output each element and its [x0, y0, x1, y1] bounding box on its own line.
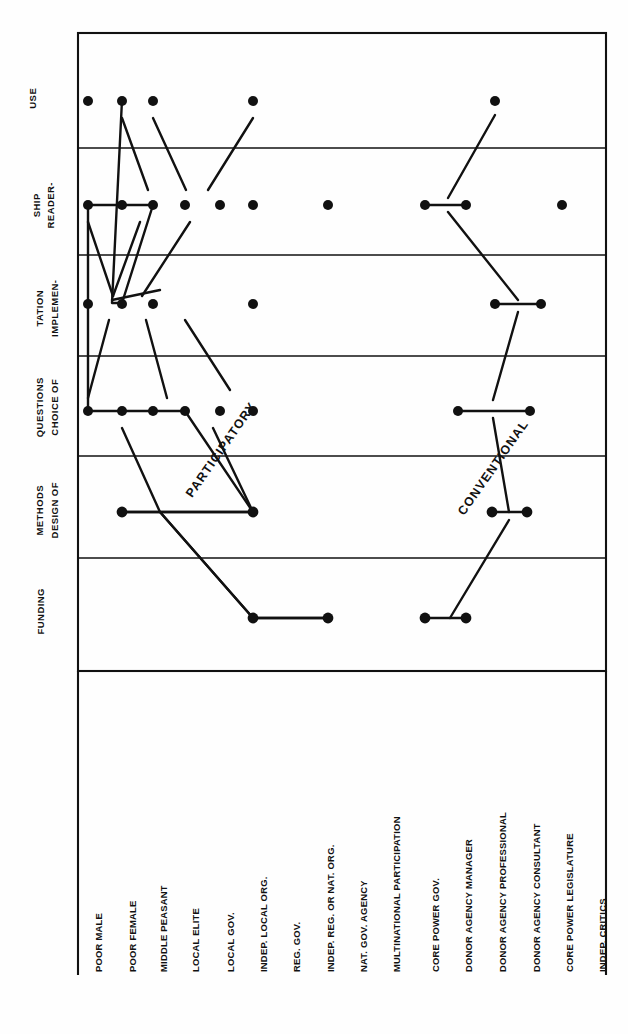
category-label-nat-gov-agency: NAT. GOV. AGENCY: [358, 880, 369, 972]
dot-design-poor-female: [117, 507, 128, 518]
dot-readership-middle-peasant: [148, 200, 158, 210]
dot-questions-donor-agency-consultant: [525, 406, 535, 416]
participatory-span-bars: [122, 512, 328, 618]
dot-readership-indep-local-org: [248, 200, 258, 210]
dot-readership-poor-female: [117, 200, 127, 210]
dot-questions-local-gov: [215, 406, 225, 416]
category-label-core-power-legislature: CORE POWER LEGISLATURE: [564, 833, 575, 972]
dot-use-middle-peasant: [148, 96, 158, 106]
dot-readership-local-gov: [215, 200, 225, 210]
dot-readership-poor-male: [83, 200, 93, 210]
category-label-local-gov: LOCAL GOV.: [225, 912, 236, 972]
dot-use-poor-female: [117, 96, 127, 106]
dot-funding-indep-local-org: [248, 613, 259, 624]
dot-questions-middle-peasant: [148, 406, 158, 416]
dot-implementation-poor-female: [117, 299, 127, 309]
category-label-donor-agency-manager: DONOR AGENCY MANAGER: [463, 839, 474, 972]
series-line-participatory: [88, 100, 328, 618]
dot-implementation-indep-local-org: [248, 299, 258, 309]
dot-implementation-poor-male: [83, 299, 93, 309]
dot-readership-core-power-gov: [420, 200, 430, 210]
category-label-reg-gov: REG. GOV.: [291, 922, 302, 972]
dot-readership-multinational: [323, 200, 333, 210]
category-label-indep-critics: INDEP. CRITICS: [597, 898, 608, 972]
category-label-middle-peasant: MIDDLE PEASANT: [158, 885, 169, 972]
category-label-poor-male: POOR MALE: [93, 913, 104, 972]
dot-questions-poor-male: [83, 406, 93, 416]
dot-design-donor-agency-professional: [487, 507, 498, 518]
dot-questions-donor-agency-manager: [453, 406, 463, 416]
dot-design-donor-agency-consultant: [522, 507, 533, 518]
dot-use-indep-local-org: [248, 96, 258, 106]
category-label-indep-reg-or-nat-org: INDEP. REG. OR NAT. ORG.: [325, 844, 336, 972]
dot-use-donor-agency-professional: [490, 96, 500, 106]
figure-canvas: USE READER- SHIP IMPLEMEN- TATION CHOICE…: [0, 0, 628, 1034]
dot-design-indep-local-org: [248, 507, 259, 518]
category-label-poor-female: POOR FEMALE: [127, 900, 138, 972]
dot-readership-donor-agency-manager: [461, 200, 471, 210]
dot-implementation-core-power-legislature: [536, 299, 546, 309]
dot-readership-indep-critics: [557, 200, 567, 210]
category-label-core-power-gov: CORE POWER GOV.: [430, 878, 441, 972]
dot-funding-indep-reg-or-nat-org: [323, 613, 334, 624]
dot-funding-core-power-gov: [420, 613, 431, 624]
category-label-donor-agency-professional: DONOR AGENCY PROFESSIONAL: [497, 812, 508, 972]
dot-questions-local-elite: [180, 406, 190, 416]
category-label-local-elite: LOCAL ELITE: [190, 908, 201, 972]
participatory-connectors: [88, 118, 253, 618]
category-label-donor-agency-consultant: DONOR AGENCY CONSULTANT: [531, 823, 542, 972]
dots-row-use: [83, 96, 500, 106]
dot-questions-poor-female: [117, 406, 127, 416]
dot-implementation-middle-peasant: [148, 299, 158, 309]
conventional-span-bars: [425, 205, 541, 618]
dot-funding-donor-agency-manager: [461, 613, 472, 624]
conventional-connectors: [448, 115, 518, 618]
dot-readership-local-elite: [180, 200, 190, 210]
category-label-multinational-participation: MULTINATIONAL PARTICIPATION: [391, 816, 402, 972]
dots-row-implementation: [83, 299, 546, 309]
dots-row-readership: [83, 200, 567, 210]
dot-implementation-donor-agency-professional: [490, 299, 500, 309]
category-label-indep-local-org: INDEP. LOCAL ORG.: [258, 876, 269, 972]
dot-use-poor-male: [83, 96, 93, 106]
